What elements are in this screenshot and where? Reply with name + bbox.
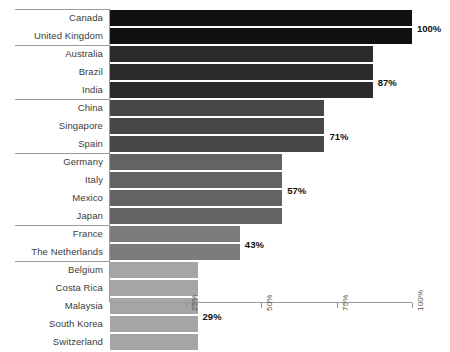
axis-tick	[412, 303, 413, 308]
category-label: Switzerland	[0, 334, 110, 350]
bar-row	[110, 262, 450, 278]
category-label: Mexico	[0, 190, 110, 206]
value-label: 87%	[378, 77, 397, 88]
axis-tick	[261, 303, 262, 308]
bar-row	[110, 280, 450, 296]
category-label: Belgium	[0, 262, 110, 278]
bar	[110, 136, 324, 152]
bar	[110, 64, 373, 80]
bar	[110, 334, 198, 350]
bar-row	[110, 190, 450, 206]
bar-row	[110, 298, 450, 314]
group-separator	[15, 225, 110, 226]
group-separator	[15, 153, 110, 154]
bar	[110, 244, 240, 260]
value-label: 29%	[203, 311, 222, 322]
category-label: China	[0, 100, 110, 116]
bar-row	[110, 118, 450, 134]
category-label: Italy	[0, 172, 110, 188]
category-label: Canada	[0, 10, 110, 26]
bar	[110, 100, 324, 116]
bar	[110, 316, 198, 332]
value-label: 71%	[329, 131, 348, 142]
category-label: France	[0, 226, 110, 242]
axis-tick-label: 25%	[190, 294, 199, 311]
bar	[110, 28, 412, 44]
bar-row	[110, 10, 450, 26]
bar	[110, 172, 282, 188]
group-separator	[15, 261, 110, 262]
bar-row	[110, 244, 450, 260]
category-label: Australia	[0, 46, 110, 62]
group-separator	[15, 99, 110, 100]
bar	[110, 154, 282, 170]
category-label: Germany	[0, 154, 110, 170]
bar-row	[110, 226, 450, 242]
category-label-column: CanadaUnited KingdomAustraliaBrazilIndia…	[0, 10, 110, 352]
value-label: 43%	[245, 239, 264, 250]
category-label: India	[0, 82, 110, 98]
bar-row	[110, 172, 450, 188]
bar-row	[110, 154, 450, 170]
category-label: Malaysia	[0, 298, 110, 314]
bar	[110, 118, 324, 134]
axis-tick-label: 75%	[341, 294, 350, 311]
bar-row	[110, 334, 450, 350]
bar	[110, 190, 282, 206]
axis-tick	[186, 303, 187, 308]
bar	[110, 280, 198, 296]
axis-tick-label: 50%	[265, 294, 274, 311]
axis-tick-label: 100%	[416, 290, 425, 311]
value-label: 57%	[287, 185, 306, 196]
bar-row	[110, 208, 450, 224]
bar-row	[110, 82, 450, 98]
category-label: United Kingdom	[0, 28, 110, 44]
bar	[110, 208, 282, 224]
group-separator	[15, 45, 110, 46]
category-label: The Netherlands	[0, 244, 110, 260]
bar-row	[110, 28, 450, 44]
category-label: Singapore	[0, 118, 110, 134]
value-label: 100%	[417, 23, 441, 34]
bar-row	[110, 136, 450, 152]
bar	[110, 298, 198, 314]
bar	[110, 262, 198, 278]
bar-row	[110, 64, 450, 80]
bar-row	[110, 100, 450, 116]
bar	[110, 46, 373, 62]
bar	[110, 226, 240, 242]
bar-row	[110, 46, 450, 62]
bars-column	[110, 10, 450, 352]
axis-tick	[337, 303, 338, 308]
category-label: Spain	[0, 136, 110, 152]
group-separator	[15, 9, 110, 10]
category-label: South Korea	[0, 316, 110, 332]
category-label: Costa Rica	[0, 280, 110, 296]
category-label: Japan	[0, 208, 110, 224]
category-label: Brazil	[0, 64, 110, 80]
bar	[110, 10, 412, 26]
bar	[110, 82, 373, 98]
bar-row	[110, 316, 450, 332]
